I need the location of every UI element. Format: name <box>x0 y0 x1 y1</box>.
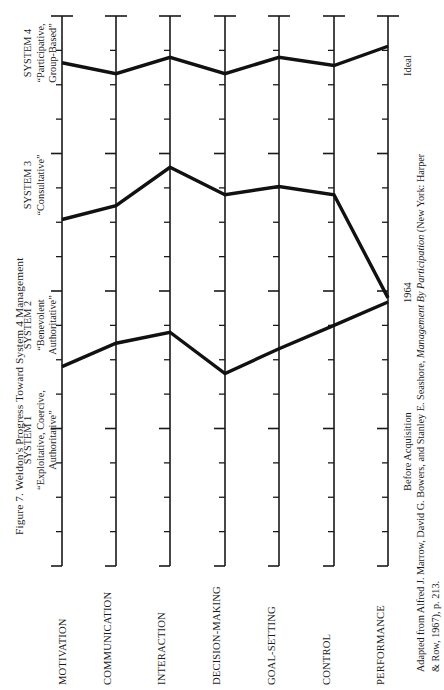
source-note-line2: & Row, 1967), p. 213. <box>429 154 444 672</box>
axes-group <box>51 16 399 566</box>
